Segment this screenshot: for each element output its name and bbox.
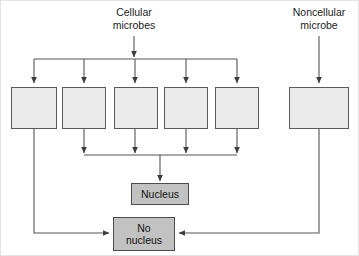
outcome-box-no-nucleus: No nucleus — [113, 217, 175, 251]
blank-answer-box-1[interactable] — [11, 87, 57, 129]
blank-answer-box-noncellular[interactable] — [289, 87, 349, 129]
arrow-noncellular-to-no-nucleus — [179, 129, 319, 233]
blank-answer-box-3[interactable] — [114, 87, 158, 129]
blank-answer-box-2[interactable] — [62, 87, 106, 129]
microbe-flowchart-diagram: Cellular microbes Noncellular microbe Nu… — [0, 0, 359, 256]
outcome-box-nucleus: Nucleus — [131, 183, 189, 205]
blank-answer-box-4[interactable] — [164, 87, 208, 129]
arrow-blank-1-to-no-nucleus — [34, 129, 109, 233]
blank-answer-box-5[interactable] — [215, 87, 259, 129]
label-cellular-microbes: Cellular microbes — [94, 6, 174, 31]
label-noncellular-microbe: Noncellular microbe — [279, 6, 359, 31]
